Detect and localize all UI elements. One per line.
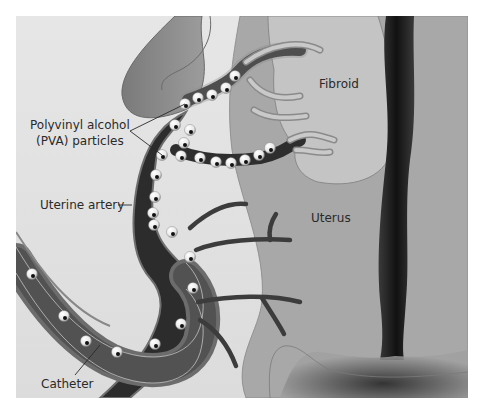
label-uterine-artery: Uterine artery bbox=[40, 197, 124, 213]
label-fibroid: Fibroid bbox=[319, 76, 359, 92]
label-pva-line1: Polyvinyl alcohol bbox=[30, 117, 130, 133]
label-uterus: Uterus bbox=[311, 210, 351, 226]
label-pva-particles: Polyvinyl alcohol (PVA) particles bbox=[30, 117, 130, 149]
label-pva-line2: (PVA) particles bbox=[30, 133, 130, 149]
label-catheter: Catheter bbox=[41, 376, 93, 392]
